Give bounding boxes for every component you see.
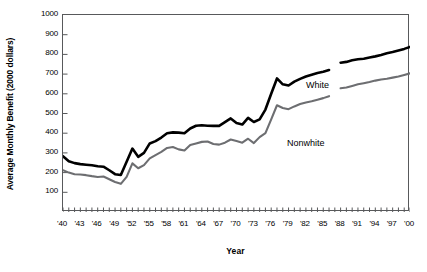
series-label-nonwhite: Nonwhite (287, 139, 325, 148)
y-tick-label: 100 (28, 187, 58, 195)
y-tick-label: 900 (28, 30, 58, 38)
y-tick-label: 600 (28, 89, 58, 97)
y-tick-label: 200 (28, 168, 58, 176)
x-axis-title: Year (62, 246, 409, 256)
series-line-white (341, 47, 410, 63)
y-axis-title-wrapper: Average Monthly Benefit (2000 dollars) (3, 8, 17, 220)
y-tick-label: 500 (28, 109, 58, 117)
y-tick-label: 700 (28, 69, 58, 77)
y-axis-title: Average Monthly Benefit (2000 dollars) (3, 8, 17, 220)
y-tick-label: 300 (28, 148, 58, 156)
series-canvas (63, 15, 410, 212)
series-line-white (63, 70, 329, 175)
y-tick-label: 400 (28, 128, 58, 136)
plot-area: White Nonwhite (62, 14, 409, 211)
x-tick-label: '00 (397, 220, 421, 228)
series-line-nonwhite (341, 73, 410, 88)
series-label-white: White (306, 81, 329, 90)
chart-figure: Average Monthly Benefit (2000 dollars) 1… (0, 0, 427, 272)
y-tick-label: 1000 (28, 10, 58, 18)
y-tick-label: 800 (28, 49, 58, 57)
